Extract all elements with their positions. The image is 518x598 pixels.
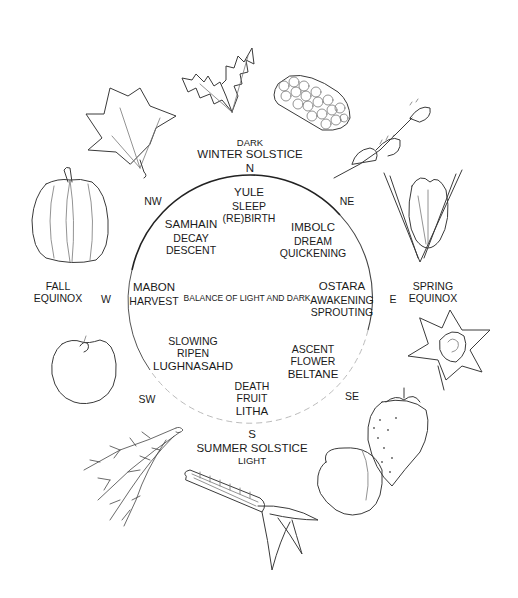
west-direction: W bbox=[101, 293, 111, 305]
peach-icon bbox=[317, 448, 382, 515]
maple-leaf-icon bbox=[86, 88, 176, 178]
corn-cob-icon bbox=[185, 470, 318, 570]
holly-leaf-icon bbox=[182, 48, 254, 112]
festival-lughnasahd: SLOWING RIPEN LUGHNASAHD bbox=[153, 335, 233, 373]
imbolc-name: IMBOLC bbox=[280, 221, 347, 235]
north-direction: N bbox=[197, 162, 302, 176]
crocus-flower-icon bbox=[384, 170, 462, 262]
strawberry-icon bbox=[368, 388, 428, 486]
wheat-sheaf-icon bbox=[84, 427, 183, 526]
center-balance-text: BALANCE OF LIGHT AND DARK bbox=[184, 293, 311, 303]
direction-se: SE bbox=[345, 390, 359, 402]
beltane-line2: FLOWER bbox=[288, 355, 339, 367]
samhain-line3: DESCENT bbox=[165, 244, 217, 256]
litha-line2: FRUIT bbox=[235, 392, 270, 404]
mabon-name: MABON bbox=[129, 281, 178, 295]
festival-samhain: SAMHAIN DECAY DESCENT bbox=[165, 218, 217, 256]
direction-ne: NE bbox=[340, 195, 355, 207]
festival-yule: YULE SLEEP (RE)BIRTH bbox=[223, 186, 276, 224]
apple-icon bbox=[52, 336, 116, 404]
daffodil-flower-icon bbox=[408, 310, 490, 390]
lughnasahd-name: LUGHNASAHD bbox=[153, 360, 233, 374]
fall-equinox-label: FALL EQUINOX bbox=[34, 280, 82, 305]
imbolc-line3: QUICKENING bbox=[280, 247, 347, 259]
dark-text: DARK bbox=[197, 137, 302, 148]
samhain-name: SAMHAIN bbox=[165, 218, 217, 232]
yule-line3: (RE)BIRTH bbox=[223, 212, 276, 224]
lughnasahd-line2: RIPEN bbox=[153, 347, 233, 359]
festival-mabon: MABON HARVEST bbox=[129, 281, 178, 307]
fall-text: FALL bbox=[34, 280, 82, 292]
festival-ostara: OSTARA AWAKENING SPROUTING bbox=[310, 280, 373, 318]
light-text: LIGHT bbox=[196, 455, 307, 466]
spring-text: SPRING bbox=[409, 280, 457, 292]
yule-line2: SLEEP bbox=[223, 200, 276, 212]
spring-equinox-label: SPRING EQUINOX bbox=[409, 280, 457, 305]
ostara-line3: SPROUTING bbox=[310, 306, 373, 318]
imbolc-line2: DREAM bbox=[280, 235, 347, 247]
lughnasahd-line1: SLOWING bbox=[153, 335, 233, 347]
ostara-line2: AWAKENING bbox=[310, 294, 373, 306]
south-summer-solstice-label: S SUMMER SOLSTICE LIGHT bbox=[196, 428, 307, 466]
north-winter-solstice-label: DARK WINTER SOLSTICE N bbox=[197, 137, 302, 175]
pine-cone-icon bbox=[274, 75, 350, 130]
ostara-name: OSTARA bbox=[310, 280, 373, 294]
mabon-line2: HARVEST bbox=[129, 295, 178, 307]
sprouting-twig-icon bbox=[334, 99, 430, 178]
equinox-text: EQUINOX bbox=[409, 292, 457, 304]
samhain-line2: DECAY bbox=[165, 232, 217, 244]
litha-name: LITHA bbox=[235, 405, 270, 419]
yule-name: YULE bbox=[223, 186, 276, 200]
summer-solstice-text: SUMMER SOLSTICE bbox=[196, 442, 307, 456]
winter-solstice-text: WINTER SOLSTICE bbox=[197, 148, 302, 162]
litha-line1: DEATH bbox=[235, 380, 270, 392]
beltane-name: BELTANE bbox=[288, 368, 339, 382]
south-direction: S bbox=[196, 428, 307, 442]
festival-imbolc: IMBOLC DREAM QUICKENING bbox=[280, 221, 347, 259]
beltane-line1: ASCENT bbox=[288, 343, 339, 355]
festival-beltane: ASCENT FLOWER BELTANE bbox=[288, 343, 339, 381]
direction-sw: SW bbox=[139, 393, 156, 405]
equinox-text: EQUINOX bbox=[34, 292, 82, 304]
festival-litha: DEATH FRUIT LITHA bbox=[235, 380, 270, 418]
pumpkin-icon bbox=[32, 167, 108, 262]
east-direction: E bbox=[389, 293, 396, 305]
direction-nw: NW bbox=[144, 195, 162, 207]
